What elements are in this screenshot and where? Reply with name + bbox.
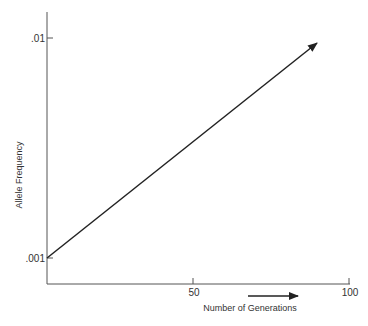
y-axis-label: Allele Frequency [14, 141, 24, 209]
x-tick-label-50: 50 [188, 287, 200, 298]
chart: .01 .001 50 100 Allele Frequency Number … [0, 0, 368, 326]
x-axis-label: Number of Generations [203, 303, 297, 313]
data-series-line [47, 43, 317, 258]
y-tick-label-0.001: .001 [26, 253, 46, 264]
y-tick-label-0.01: .01 [31, 33, 45, 44]
x-tick-label-100: 100 [342, 287, 359, 298]
